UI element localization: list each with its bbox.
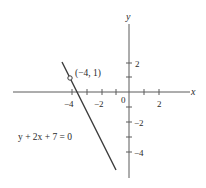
x-tick-label: −4 bbox=[64, 99, 74, 109]
y-tick-label: 2 bbox=[135, 59, 140, 69]
coordinate-diagram: x y 0 −4 −2 2 2 −2 −4 (−4, 1) y + 2x + 7… bbox=[0, 0, 206, 188]
point-label: (−4, 1) bbox=[75, 68, 101, 79]
x-axis-label: x bbox=[190, 86, 196, 97]
x-tick-label: 2 bbox=[157, 99, 162, 109]
point-marker bbox=[68, 76, 72, 80]
y-axis-label: y bbox=[125, 11, 131, 22]
origin-label: 0 bbox=[121, 95, 126, 105]
x-tick-label: −2 bbox=[94, 99, 104, 109]
y-tick-label: −4 bbox=[134, 148, 144, 158]
x-axis bbox=[13, 89, 190, 95]
y-tick-label: −2 bbox=[134, 118, 144, 128]
y-axis bbox=[126, 24, 132, 178]
equation-label: y + 2x + 7 = 0 bbox=[18, 132, 72, 142]
